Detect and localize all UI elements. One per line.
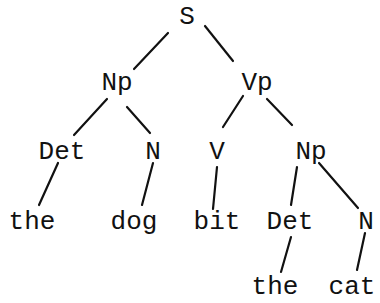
tree-edge	[291, 167, 297, 205]
tree-edge	[223, 96, 243, 127]
node-n-object: N	[358, 209, 374, 235]
leaf-the-subject: the	[9, 209, 56, 235]
leaf-cat: cat	[329, 274, 376, 300]
node-det-object: Det	[267, 209, 314, 235]
tree-edge	[205, 26, 233, 61]
node-vp: Vp	[241, 70, 272, 96]
tree-edge	[142, 163, 153, 205]
node-det-subject: Det	[39, 139, 86, 165]
tree-edge	[319, 163, 358, 208]
tree-edge	[267, 99, 292, 125]
tree-edge	[213, 167, 217, 209]
parse-tree-diagram: S Np Vp Det N V Np the dog bit Det N the…	[0, 0, 380, 303]
tree-edge	[127, 107, 150, 133]
node-np-subject: Np	[101, 70, 132, 96]
node-s: S	[179, 4, 195, 30]
tree-edge	[357, 233, 365, 270]
node-n-subject: N	[145, 139, 161, 165]
leaf-bit: bit	[194, 209, 241, 235]
node-np-object: Np	[295, 139, 326, 165]
tree-edge	[281, 237, 291, 272]
tree-edge	[39, 163, 58, 205]
tree-edge	[74, 99, 107, 135]
node-v: V	[209, 139, 225, 165]
tree-edge	[134, 33, 168, 69]
leaf-dog: dog	[111, 209, 158, 235]
leaf-the-object: the	[252, 274, 299, 300]
